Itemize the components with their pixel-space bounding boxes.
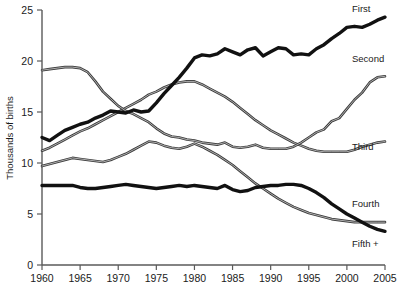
series-line-fourth: [42, 142, 385, 223]
y-tick-label: 15: [21, 106, 33, 118]
x-tick-label: 2005: [373, 272, 397, 284]
x-tick-label: 1990: [259, 272, 283, 284]
series-label-second: Second: [352, 53, 384, 64]
x-tick-label: 1965: [68, 272, 92, 284]
x-tick-label: 1975: [145, 272, 169, 284]
x-tick-label: 1970: [107, 272, 131, 284]
series-line-third: [42, 81, 385, 151]
x-axis-ticks: 1960196519701975198019851990199520002005: [30, 265, 397, 284]
line-chart: 0510152025 19601965197019751980198519901…: [0, 0, 398, 293]
series-line-highlight: [42, 67, 385, 149]
series-label-first: First: [352, 3, 371, 14]
axes-group: [42, 10, 385, 265]
y-tick-label: 5: [27, 208, 33, 220]
series-label-fourth: Fourth: [352, 198, 379, 209]
y-tick-label: 10: [21, 157, 33, 169]
y-tick-label: 20: [21, 55, 33, 67]
data-series-group: [42, 17, 385, 231]
x-tick-label: 1985: [221, 272, 245, 284]
series-line-fifth: [42, 184, 385, 231]
series-label-third: Third: [352, 141, 374, 152]
x-tick-label: 1960: [30, 272, 54, 284]
y-axis-title: Thousands of births: [4, 96, 15, 180]
y-tick-label: 0: [27, 259, 33, 271]
y-axis-ticks: 0510152025: [21, 4, 42, 271]
x-tick-label: 2000: [335, 272, 359, 284]
x-tick-label: 1995: [297, 272, 321, 284]
chart-figure: 0510152025 19601965197019751980198519901…: [0, 0, 398, 293]
y-tick-label: 25: [21, 4, 33, 16]
x-tick-label: 1980: [183, 272, 207, 284]
series-labels-group: FirstSecondThirdFourthFifth +: [352, 3, 384, 249]
series-label-fifth: Fifth +: [352, 238, 379, 249]
